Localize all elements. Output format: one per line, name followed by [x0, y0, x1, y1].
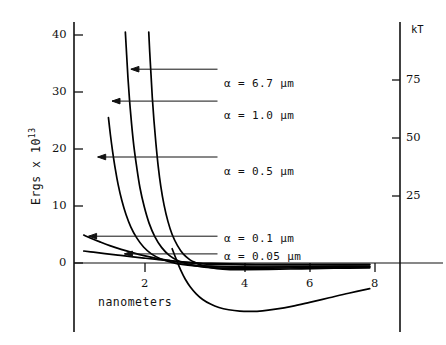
annotation-label-alpha-0-05: α = 0.05 μm: [224, 250, 301, 263]
xtick-label-2: 2: [141, 276, 148, 290]
y2tick-label-50: 50: [406, 130, 421, 144]
ytick-label-30: 30: [52, 84, 67, 98]
y-axis-title-base: Ergs x 10: [29, 138, 43, 205]
ytick-label-10: 10: [52, 198, 67, 212]
annotation-label-alpha-6-7: α = 6.7 μm: [224, 77, 294, 90]
y-axis-title: Ergs x 1013: [28, 128, 43, 205]
y2tick-label-75: 75: [406, 72, 421, 86]
annotation-arrow-head-0: [131, 66, 139, 72]
interaction-energy-chart: [0, 0, 446, 345]
ytick-label-0: 0: [59, 255, 66, 269]
left-axis-ticks: [74, 35, 83, 263]
y2tick-label-25: 25: [406, 188, 421, 202]
xtick-label-6: 6: [306, 276, 313, 290]
right-axis-ticks: [392, 80, 400, 196]
annotation-arrow-head-1: [112, 98, 120, 104]
annotation-arrows: [89, 66, 218, 256]
ytick-label-40: 40: [52, 27, 67, 41]
annotation-label-alpha-1-0: α = 1.0 μm: [224, 109, 294, 122]
y-axis-title-exponent: 13: [28, 128, 37, 139]
annotation-label-alpha-0-1: α = 0.1 μm: [224, 232, 294, 245]
ytick-label-20: 20: [52, 141, 67, 155]
x-axis-title: nanometers: [98, 295, 172, 309]
xtick-label-4: 4: [241, 276, 248, 290]
annotation-label-alpha-0-5: α = 0.5 μm: [224, 165, 294, 178]
annotation-arrow-head-2: [98, 154, 106, 160]
y2-axis-title: kT: [411, 23, 424, 35]
xtick-label-8: 8: [371, 276, 378, 290]
